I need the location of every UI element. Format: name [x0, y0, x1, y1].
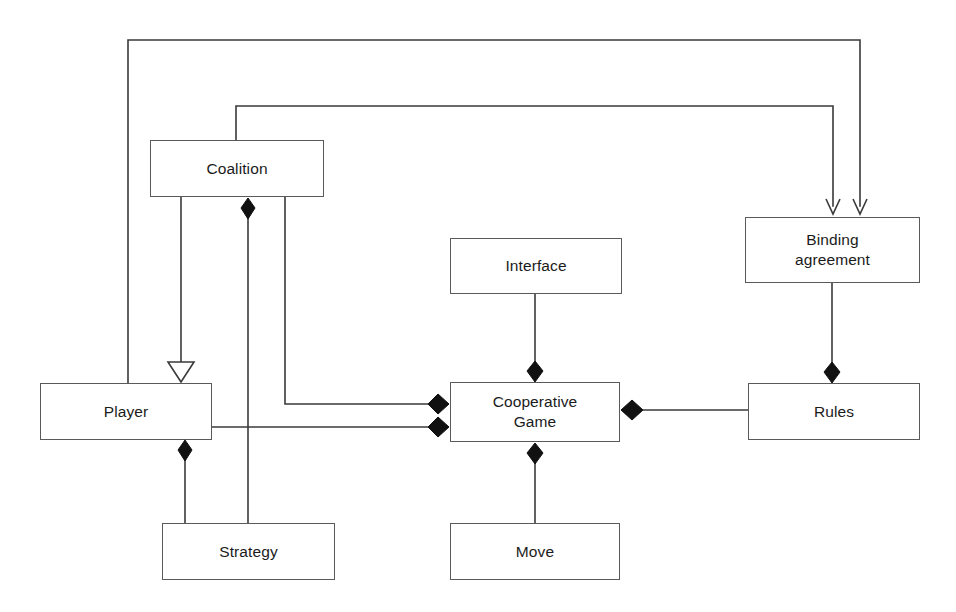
edge-coalition-to-cooperative-game — [285, 197, 438, 404]
diagram-connector-layer — [0, 0, 956, 612]
class-label-binding-agreement: Binding agreement — [795, 230, 870, 270]
class-box-coalition[interactable]: Coalition — [150, 140, 324, 197]
class-label-cooperative-game: Cooperative Game — [493, 392, 578, 432]
filled-diamond-icon-coalition-cooperative-game — [428, 394, 449, 414]
filled-diamond-icon-player-cooperative-game — [428, 417, 449, 437]
class-box-player[interactable]: Player — [40, 383, 212, 440]
class-label-strategy: Strategy — [219, 542, 278, 562]
filled-diamond-icon-cooperative-game-move — [527, 443, 543, 464]
uml-class-diagram: Coalition Interface Binding agreement Pl… — [0, 0, 956, 612]
filled-diamond-icon-coalition-strategy — [241, 198, 255, 219]
class-label-interface: Interface — [505, 256, 566, 276]
hollow-triangle-icon-generalization — [168, 362, 194, 382]
class-box-cooperative-game[interactable]: Cooperative Game — [450, 382, 620, 442]
filled-diamond-icon-rules-cooperative-game — [621, 400, 643, 420]
filled-diamond-icon-player-strategy — [178, 440, 192, 461]
class-box-rules[interactable]: Rules — [748, 383, 920, 440]
class-box-strategy[interactable]: Strategy — [162, 523, 335, 580]
class-label-player: Player — [104, 402, 149, 422]
class-box-interface[interactable]: Interface — [450, 238, 622, 294]
edge-player-to-binding-agreement — [128, 40, 860, 383]
class-box-move[interactable]: Move — [450, 523, 620, 580]
class-label-move: Move — [516, 542, 554, 562]
class-box-binding-agreement[interactable]: Binding agreement — [745, 217, 920, 283]
class-label-coalition: Coalition — [206, 159, 267, 179]
class-label-rules: Rules — [814, 402, 854, 422]
edge-coalition-to-binding-agreement — [236, 106, 833, 206]
filled-diamond-icon-interface-cooperative-game — [527, 361, 543, 382]
filled-diamond-icon-binding-agreement-rules — [824, 362, 840, 383]
